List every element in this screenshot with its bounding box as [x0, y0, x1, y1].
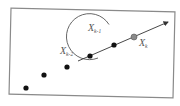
point-x-k — [131, 34, 137, 40]
point-x-k-2 — [87, 53, 92, 58]
point-2 — [41, 72, 46, 77]
label-x-k: Xk — [138, 37, 148, 49]
point-x-k-1 — [111, 42, 116, 47]
point-1 — [23, 85, 28, 90]
trajectory-diagram: Xk-2 Xk-1 Xk — [0, 0, 180, 106]
label-x-k-2: Xk-2 — [59, 45, 73, 57]
point-3 — [64, 64, 69, 69]
label-x-k-1: Xk-1 — [87, 22, 101, 34]
